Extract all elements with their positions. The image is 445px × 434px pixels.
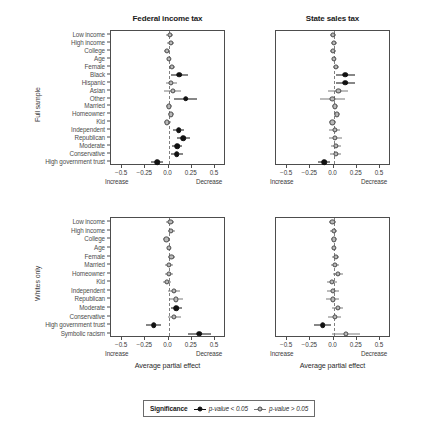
x-tick-label: −0.5	[280, 341, 292, 348]
estimate-point	[174, 143, 180, 149]
estimate-point	[168, 40, 173, 45]
axis-direction-increase: Increase	[270, 350, 293, 357]
x-tick-mark	[309, 165, 310, 168]
x-tick-mark	[356, 337, 357, 340]
estimate-point	[166, 263, 171, 268]
y-tick-mark	[107, 221, 110, 222]
category-label: Female	[0, 252, 105, 259]
y-tick-mark	[107, 289, 110, 290]
x-tick-mark	[379, 165, 380, 168]
estimate-point	[176, 127, 182, 133]
axis-direction-decrease: Decrease	[196, 178, 222, 185]
estimate-point	[334, 64, 339, 69]
category-label: College	[0, 46, 105, 53]
x-tick-label: 0.0	[163, 341, 171, 348]
x-tick-mark	[214, 165, 215, 168]
estimate-point	[335, 305, 340, 310]
estimate-point	[334, 144, 339, 149]
estimate-point	[166, 271, 171, 276]
x-tick-mark	[356, 165, 357, 168]
y-tick-mark	[107, 121, 110, 122]
y-tick-mark	[107, 113, 110, 114]
x-tick-label: 0.5	[210, 169, 218, 176]
category-label: Independent	[0, 126, 105, 133]
x-tick-label: 0.0	[163, 169, 171, 176]
x-tick-mark	[168, 337, 169, 340]
x-tick-label: 0.5	[375, 341, 383, 348]
category-label: Homeowner	[0, 110, 105, 117]
category-label: College	[0, 235, 105, 242]
category-label: Moderate	[0, 142, 105, 149]
estimate-point	[169, 64, 174, 69]
y-tick-mark	[107, 105, 110, 106]
x-tick-mark	[191, 337, 192, 340]
category-label: Homeowner	[0, 269, 105, 276]
estimate-point	[332, 263, 337, 268]
category-label: High government trust	[0, 158, 105, 165]
estimate-point	[174, 151, 180, 157]
x-tick-mark	[333, 337, 334, 340]
estimate-point	[332, 128, 337, 133]
x-axis-title: Average partial effect	[300, 361, 365, 370]
y-tick-mark	[107, 153, 110, 154]
category-label: Symbolic racism	[0, 329, 105, 336]
x-tick-label: −0.25	[137, 341, 152, 348]
category-label: Moderate	[0, 304, 105, 311]
x-tick-label: −0.25	[302, 341, 317, 348]
category-label: Hispanic	[0, 78, 105, 85]
y-tick-mark	[107, 73, 110, 74]
axis-direction-decrease: Decrease	[196, 350, 222, 357]
category-label: Conservative	[0, 150, 105, 157]
estimate-point	[196, 331, 202, 337]
category-label: Independent	[0, 286, 105, 293]
estimate-point	[170, 88, 175, 93]
y-tick-mark	[107, 315, 110, 316]
estimate-point	[333, 104, 338, 109]
estimate-point	[331, 56, 336, 61]
x-tick-mark	[144, 165, 145, 168]
category-label: Low income	[0, 218, 105, 225]
x-tick-mark	[168, 165, 169, 168]
estimate-point	[333, 136, 338, 141]
y-tick-mark	[107, 81, 110, 82]
x-tick-mark	[191, 165, 192, 168]
y-tick-mark	[107, 65, 110, 66]
estimate-point	[177, 72, 183, 78]
x-tick-label: 0.0	[328, 169, 336, 176]
estimate-point	[169, 228, 174, 233]
estimate-point	[183, 96, 189, 102]
coefficient-plot-figure: Federal income taxState sales taxFull sa…	[0, 0, 445, 434]
axis-direction-decrease: Decrease	[361, 178, 387, 185]
legend-dot	[197, 406, 202, 411]
y-tick-mark	[107, 238, 110, 239]
y-tick-mark	[107, 307, 110, 308]
estimate-point	[334, 112, 339, 117]
y-tick-mark	[107, 229, 110, 230]
x-tick-mark	[286, 165, 287, 168]
y-tick-mark	[107, 89, 110, 90]
estimate-point	[172, 288, 177, 293]
estimate-point	[332, 314, 337, 319]
x-tick-mark	[309, 337, 310, 340]
legend: Significancep-value < 0.05p-value > 0.05	[143, 400, 315, 417]
x-tick-label: 0.0	[328, 341, 336, 348]
estimate-point	[166, 104, 171, 109]
y-tick-mark	[107, 57, 110, 58]
x-tick-label: −0.5	[115, 169, 127, 176]
x-tick-label: 0.5	[210, 341, 218, 348]
legend-dot	[257, 406, 262, 411]
axis-direction-decrease: Decrease	[361, 350, 387, 357]
estimate-point	[333, 151, 338, 156]
estimate-point	[322, 159, 328, 165]
y-tick-mark	[107, 332, 110, 333]
estimate-point	[174, 305, 180, 311]
category-label: High government trust	[0, 321, 105, 328]
estimate-point	[180, 135, 186, 141]
estimate-point	[331, 228, 336, 233]
x-tick-label: −0.25	[302, 169, 317, 176]
y-tick-mark	[107, 247, 110, 248]
y-tick-mark	[107, 137, 110, 138]
estimate-point	[331, 237, 336, 242]
x-tick-mark	[121, 337, 122, 340]
estimate-point	[335, 271, 340, 276]
